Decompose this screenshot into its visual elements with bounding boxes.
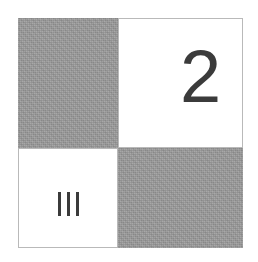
quadrant-cell-bottom-right xyxy=(118,148,243,248)
roman-numeral-three-glyph: III xyxy=(58,192,79,216)
quadrant-grid: 2 III xyxy=(18,18,243,248)
quadrant-cell-bottom-left: III xyxy=(18,148,118,248)
roman-stroke-3 xyxy=(76,192,79,216)
arabic-numeral-two-glyph: 2 xyxy=(180,40,221,114)
quadrant-cell-top-left xyxy=(18,18,118,148)
quadrant-cell-top-right: 2 xyxy=(118,18,243,148)
figure-root: 2 III xyxy=(0,0,258,262)
roman-stroke-1 xyxy=(58,192,61,216)
roman-stroke-2 xyxy=(67,192,70,216)
